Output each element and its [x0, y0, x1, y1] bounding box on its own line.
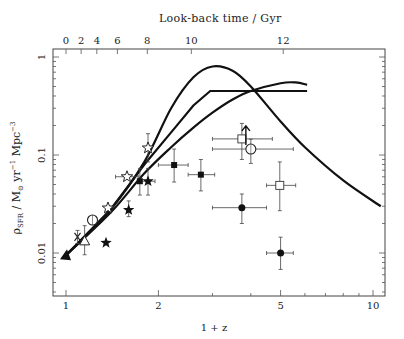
- data-points: [60, 123, 296, 269]
- filled-square-marker: [198, 172, 204, 178]
- top-tick-label: 10: [185, 35, 198, 46]
- top-tick-label: 0: [63, 35, 69, 46]
- open-circle-point: [88, 215, 98, 225]
- filled-square-marker: [171, 162, 177, 168]
- top-tick-label: 6: [114, 35, 120, 46]
- filled-star-marker: [100, 237, 111, 248]
- open-star-point: [142, 134, 153, 162]
- x-tick-label: 1: [63, 300, 69, 311]
- top-tick-label: 4: [94, 35, 100, 46]
- open-square-marker: [238, 135, 246, 143]
- y-tick-label: 0.01: [36, 242, 47, 264]
- filled-circle-point: [212, 194, 266, 224]
- top-tick-label: 8: [144, 35, 150, 46]
- y-tick-label: 1: [36, 54, 47, 60]
- y-axis-title: ρSFR / M⊙ yr−1 Mpc−3: [9, 122, 25, 235]
- plot-frame: [53, 49, 385, 296]
- peaked-model-curve: [66, 66, 381, 255]
- open-square-point: [212, 123, 272, 159]
- filled-square-point: [188, 159, 215, 190]
- filled-circle-marker: [277, 250, 284, 257]
- top-axis-title: Look-back time / Gyr: [159, 12, 282, 25]
- rising-model-curve: [66, 82, 307, 255]
- x-axis-title: 1 + z: [201, 322, 227, 333]
- top-tick-label: 12: [277, 35, 290, 46]
- x-tick-label: 5: [277, 300, 283, 311]
- open-square-marker: [276, 181, 284, 189]
- y-tick-label: 0.1: [36, 147, 47, 163]
- filled-star-point: [123, 201, 134, 217]
- model-curves: [66, 66, 381, 255]
- top-tick-label: 2: [78, 35, 84, 46]
- filled-circle-point: [267, 237, 294, 269]
- flat-model-curve: [66, 91, 307, 255]
- open-star-marker: [121, 171, 132, 182]
- filled-circle-marker: [238, 204, 245, 211]
- open-circle-point: [212, 139, 293, 163]
- chart: [0, 0, 404, 339]
- filled-square-marker: [137, 178, 143, 184]
- axes: [53, 49, 385, 296]
- filled-star-point: [100, 237, 111, 248]
- x-tick-label: 2: [155, 300, 161, 311]
- x-tick-label: 10: [367, 300, 380, 311]
- open-square-point: [267, 162, 296, 211]
